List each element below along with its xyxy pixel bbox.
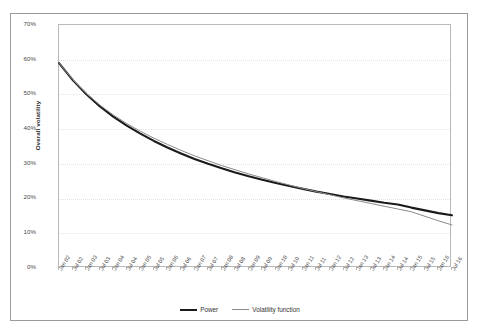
y-axis-tick-label: 50% — [2, 90, 36, 96]
legend-entry[interactable]: Volatility function — [232, 306, 300, 313]
y-axis-tick-label: 40% — [2, 125, 36, 131]
series-line-volatility-function — [59, 63, 452, 225]
y-axis-tick-label: 30% — [2, 160, 36, 166]
chart-plot-container: Overall volatility 0%10%20%30%40%50%60%7… — [11, 14, 469, 322]
y-axis-tick-label: 70% — [2, 21, 36, 27]
legend-label: Power — [200, 306, 218, 313]
legend-label: Volatility function — [252, 306, 300, 313]
y-axis-tick-label: 0% — [2, 264, 36, 270]
chart-figure-frame: Overall volatility 0%10%20%30%40%50%60%7… — [10, 13, 468, 321]
chart-legend: PowerVolatility function — [11, 306, 469, 313]
legend-line-swatch-icon — [232, 309, 249, 310]
series-lines — [59, 25, 452, 268]
plot-area — [58, 24, 451, 267]
series-line-power — [59, 63, 452, 215]
legend-line-swatch-icon — [180, 309, 197, 311]
y-axis-tick-label: 20% — [2, 194, 36, 200]
y-axis-tick-label: 10% — [2, 229, 36, 235]
y-axis-tick-label: 60% — [2, 56, 36, 62]
x-axis-tick-label: Jul 16 — [451, 256, 464, 272]
legend-entry[interactable]: Power — [180, 306, 218, 313]
